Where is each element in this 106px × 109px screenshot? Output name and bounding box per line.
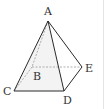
label-a: A — [43, 5, 53, 18]
pyramid-diagram: A B C D E — [0, 0, 106, 109]
edge-de — [64, 67, 82, 91]
label-e: E — [85, 62, 93, 75]
label-c: C — [3, 85, 11, 98]
label-d: D — [63, 94, 72, 107]
label-b: B — [33, 70, 41, 83]
